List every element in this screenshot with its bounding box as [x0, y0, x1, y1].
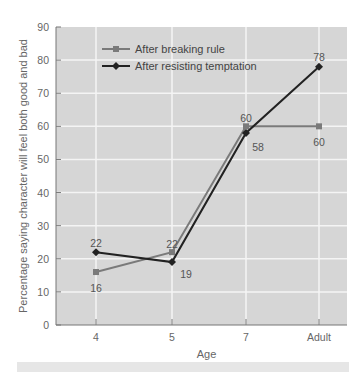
x-tick-label: 5 — [169, 331, 175, 343]
data-label: 58 — [252, 141, 264, 153]
data-label: 16 — [90, 282, 102, 294]
x-tick-label: 4 — [93, 331, 99, 343]
square-marker — [316, 123, 322, 129]
data-label: 60 — [313, 136, 325, 148]
x-axis-label: Age — [197, 348, 217, 360]
y-axis-label: Percentage saying character will feel bo… — [17, 39, 29, 313]
square-marker — [93, 269, 99, 275]
y-tick-label: 50 — [37, 153, 49, 165]
line-chart: 0102030405060708090 457Adult Percentage … — [0, 0, 363, 380]
data-label: 78 — [313, 51, 325, 63]
y-tick-label: 20 — [37, 253, 49, 265]
x-tick-label: 7 — [243, 331, 249, 343]
y-tick-label: 30 — [37, 220, 49, 232]
y-tick-label: 80 — [37, 54, 49, 66]
legend-entry: After resisting temptation — [135, 60, 257, 72]
caption-band — [17, 362, 349, 372]
x-tick-label: Adult — [307, 331, 331, 343]
y-tick-label: 90 — [37, 21, 49, 33]
data-label: 22 — [90, 237, 102, 249]
legend-entry: After breaking rule — [135, 43, 225, 55]
y-tick-label: 0 — [43, 319, 49, 331]
y-tick-label: 40 — [37, 187, 49, 199]
data-label: 22 — [166, 238, 178, 250]
y-tick-label: 70 — [37, 87, 49, 99]
y-tick-label: 60 — [37, 120, 49, 132]
data-label: 60 — [240, 112, 252, 124]
square-marker — [113, 46, 119, 52]
data-label: 19 — [180, 268, 192, 280]
y-tick-label: 10 — [37, 286, 49, 298]
